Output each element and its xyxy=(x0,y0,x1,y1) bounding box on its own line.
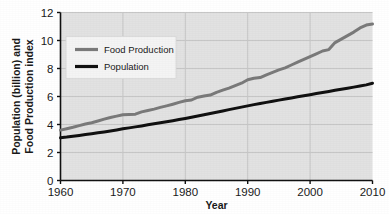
x-tick-label: 1990 xyxy=(235,186,261,198)
y-tick-label: 4 xyxy=(47,119,54,131)
chart-figure: 196019701980199020002010 024681012 Year … xyxy=(0,0,389,214)
y-tick-label: 8 xyxy=(47,63,53,75)
y-tick-label: 0 xyxy=(47,175,53,187)
y-axis-title: Population (billion) andFood Production … xyxy=(10,38,34,155)
legend-label-population: Population xyxy=(104,61,149,72)
x-tick-label: 1980 xyxy=(173,186,199,198)
y-tick-label: 2 xyxy=(47,147,53,159)
x-tick-label: 1970 xyxy=(110,186,136,198)
legend-box xyxy=(66,37,176,79)
y-axis-title-text: Population (billion) andFood Production … xyxy=(10,38,34,155)
y-tick-label: 12 xyxy=(41,7,54,19)
x-axis-title: Year xyxy=(205,199,227,211)
x-axis-title-text: Year xyxy=(205,199,227,211)
population-food-production-line-chart: 196019701980199020002010 024681012 Year … xyxy=(0,0,389,214)
x-tick-label: 2010 xyxy=(360,186,386,198)
legend-label-food-production: Food Production xyxy=(104,44,174,55)
y-axis-title-line-2: Food Production index xyxy=(23,39,35,153)
y-tick-label: 6 xyxy=(47,91,53,103)
y-axis-title-line-1: Population (billion) and xyxy=(10,38,22,155)
x-tick-label: 1960 xyxy=(48,186,74,198)
x-tick-label: 2000 xyxy=(297,186,323,198)
y-tick-label: 10 xyxy=(41,35,54,47)
chart-legend: Food ProductionPopulation xyxy=(66,37,176,79)
